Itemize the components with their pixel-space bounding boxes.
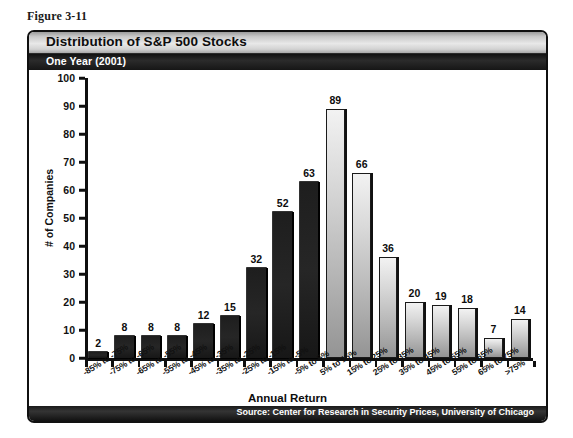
y-tick-label: 90: [45, 100, 75, 112]
y-tick-mark: [79, 217, 85, 220]
chart-subtitle: One Year (2001): [46, 55, 126, 67]
bar-value-label: 89: [315, 94, 355, 106]
y-tick-label: 40: [45, 240, 75, 252]
y-tick-mark: [79, 105, 85, 108]
y-axis-title: # of Companies: [43, 128, 55, 288]
y-tick-mark: [79, 301, 85, 304]
bar-value-label: 7: [473, 323, 513, 335]
bar-value-label: 18: [447, 293, 487, 305]
chart-title: Distribution of S&P 500 Stocks: [46, 34, 247, 49]
y-tick-label: 30: [45, 268, 75, 280]
source-note: Source: Center for Research in Security …: [236, 407, 534, 417]
y-tick-label: 20: [45, 296, 75, 308]
y-tick-mark: [79, 245, 85, 248]
y-tick-mark: [79, 329, 85, 332]
y-tick-mark: [79, 161, 85, 164]
plot-area: # of Companies 0102030405060708090100 28…: [29, 70, 546, 410]
bar: [300, 182, 318, 358]
y-tick-mark: [79, 273, 85, 276]
bar-value-label: 2: [78, 337, 118, 349]
chart-footer-bar: Source: Center for Research in Security …: [29, 406, 546, 421]
bar: [379, 257, 397, 358]
y-tick-label: 80: [45, 128, 75, 140]
y-tick-mark: [79, 77, 85, 80]
bar: [273, 212, 291, 358]
chart-title-bar: Distribution of S&P 500 Stocks: [29, 32, 546, 54]
bar-value-label: 63: [289, 167, 329, 179]
figure-caption: Figure 3-11: [27, 9, 87, 24]
y-tick-label: 70: [45, 156, 75, 168]
x-axis-title: Annual Return: [29, 392, 546, 404]
y-tick-mark: [79, 189, 85, 192]
bar-value-label: 66: [342, 158, 382, 170]
bar-value-label: 32: [236, 253, 276, 265]
bar: [352, 173, 370, 358]
y-tick-label: 100: [45, 72, 75, 84]
y-tick-mark: [79, 357, 85, 360]
bar-value-label: 15: [210, 301, 250, 313]
y-tick-mark: [79, 133, 85, 136]
y-axis-line: [85, 78, 88, 361]
y-tick-label: 0: [45, 352, 75, 364]
bar: [326, 109, 344, 358]
chart-panel: Distribution of S&P 500 Stocks One Year …: [27, 30, 548, 423]
x-tick-mark: [533, 361, 536, 367]
bar-value-label: 14: [500, 304, 540, 316]
chart-subtitle-bar: One Year (2001): [29, 54, 546, 70]
y-tick-label: 60: [45, 184, 75, 196]
y-tick-label: 10: [45, 324, 75, 336]
bar-value-label: 52: [263, 197, 303, 209]
y-tick-label: 50: [45, 212, 75, 224]
bar-value-label: 8: [157, 321, 197, 333]
bar-value-label: 36: [368, 242, 408, 254]
